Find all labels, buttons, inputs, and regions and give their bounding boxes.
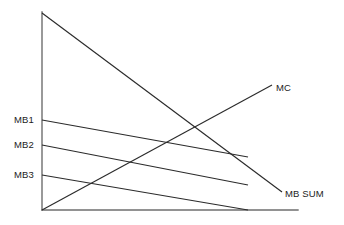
mb-sum-label: MB SUM xyxy=(285,188,324,199)
mc-label: MC xyxy=(276,82,291,93)
mb2-label: MB2 xyxy=(14,139,34,150)
public-good-diagram: MB1 MB2 MB3 MC MB SUM xyxy=(0,0,344,225)
mb-sum-curve xyxy=(42,13,282,192)
mb3-curve xyxy=(42,175,248,210)
mb3-label: MB3 xyxy=(14,169,34,180)
mb1-label: MB1 xyxy=(14,114,34,125)
mc-curve xyxy=(42,85,272,210)
